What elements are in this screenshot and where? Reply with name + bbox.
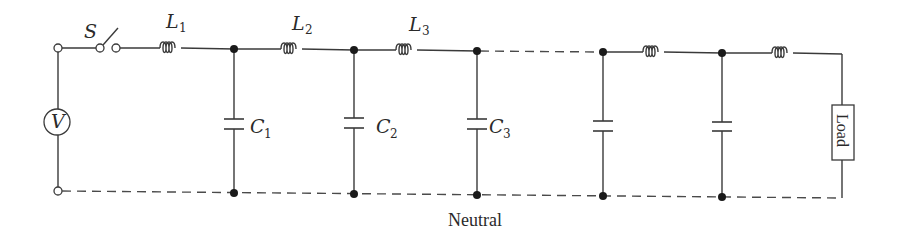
- inductor-l3-subscript: 3: [422, 24, 430, 38]
- capacitor-c3-letter: C: [489, 115, 504, 137]
- inductor-l1-subscript: 1: [179, 21, 187, 35]
- junction-node-icon: [599, 192, 607, 200]
- inductor-l2-letter: L: [291, 12, 305, 34]
- capacitor-c3: C 3: [467, 51, 511, 195]
- switch-blade-icon: [103, 28, 118, 45]
- inductor-4-icon: [643, 46, 658, 57]
- junction-node-icon: [230, 45, 238, 53]
- junction-node-icon: [350, 46, 358, 54]
- neutral-label: Neutral: [448, 210, 502, 230]
- switch-contact-right-icon: [112, 44, 120, 52]
- junction-node-icon: [599, 48, 607, 56]
- capacitor-c3-subscript: 3: [503, 127, 511, 141]
- switch-contact-left-icon: [96, 44, 104, 52]
- load-branch: Load: [832, 54, 854, 198]
- top-dashed-continuation: [480, 51, 600, 52]
- capacitor-c2-subscript: 2: [390, 127, 398, 141]
- junction-node-icon: [350, 190, 358, 198]
- capacitor-c1: C 1: [224, 49, 272, 193]
- inductor-l1-letter: L: [165, 10, 179, 32]
- junction-node-icon: [230, 189, 238, 197]
- junction-node-icon: [718, 193, 726, 201]
- junction-node-icon: [473, 191, 481, 199]
- ladder-network-diagram: V S L 1 L 2 L 3 Load: [0, 0, 901, 245]
- switch-s: S: [62, 20, 120, 52]
- top-left-terminal-icon: [54, 44, 62, 52]
- capacitor-c1-letter: C: [250, 115, 265, 137]
- junction-node-icon: [473, 47, 481, 55]
- capacitor-c1-subscript: 1: [264, 127, 272, 141]
- capacitor-c2-letter: C: [376, 115, 391, 137]
- switch-label: S: [84, 20, 97, 42]
- inductor-5-icon: [772, 47, 787, 58]
- inductor-l3-letter: L: [408, 13, 422, 35]
- inductor-l1-icon: [160, 42, 175, 53]
- load-label: Load: [834, 114, 851, 147]
- capacitor-5: [712, 53, 732, 197]
- capacitor-c2: C 2: [344, 50, 398, 194]
- bottom-left-terminal-icon: [54, 187, 62, 195]
- capacitor-4: [593, 52, 613, 196]
- voltage-source-label: V: [51, 110, 67, 132]
- junction-nodes: [230, 45, 726, 201]
- voltage-source-branch: V: [44, 44, 70, 195]
- inductor-l2-icon: [281, 43, 296, 54]
- inductor-l2-subscript: 2: [305, 23, 313, 37]
- inductor-l3-icon: [396, 44, 411, 55]
- junction-node-icon: [718, 49, 726, 57]
